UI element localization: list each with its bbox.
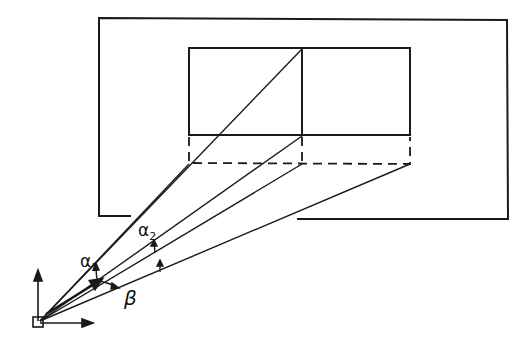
- dashed-projection: [189, 137, 410, 164]
- beta-arrow-icon: [111, 283, 119, 289]
- alpha2-label: α2: [138, 220, 156, 243]
- projection-diagram: α1 α2 β: [0, 0, 531, 353]
- x-axis-arrow-icon: [82, 319, 93, 327]
- beta-label: β: [123, 286, 137, 310]
- inner-rectangle: [189, 48, 410, 135]
- alpha2-lower-arrow-icon: [157, 260, 163, 266]
- ray-dashed-right: [40, 164, 410, 321]
- ray-dashed-left: [40, 164, 189, 321]
- alpha1-label: α1: [80, 251, 98, 274]
- ray-dashed-center: [40, 164, 302, 321]
- y-axis-arrow-icon: [34, 270, 42, 281]
